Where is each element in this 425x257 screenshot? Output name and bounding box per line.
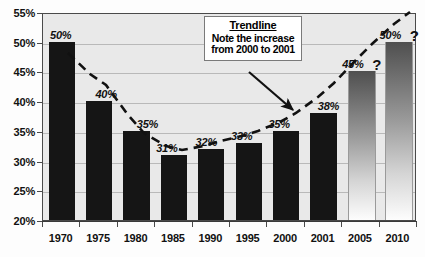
value-label-2005: 45%	[342, 58, 363, 70]
value-label-1990: 32%	[196, 136, 217, 148]
x-tick-mark	[42, 222, 43, 227]
bar-2005	[348, 71, 376, 220]
x-tick-mark	[266, 222, 267, 227]
x-tick-label-1995: 1995	[236, 232, 260, 244]
bar-1980	[123, 131, 149, 220]
x-tick-mark	[154, 222, 155, 227]
x-tick-label-2005: 2005	[348, 232, 372, 244]
value-label-2000: 35%	[268, 118, 289, 130]
x-tick-label-2010: 2010	[385, 232, 409, 244]
bar-1990	[198, 149, 224, 220]
x-tick-mark	[79, 222, 80, 227]
bar-2010	[385, 42, 413, 220]
x-tick-label-1990: 1990	[198, 232, 222, 244]
x-tick-label-1980: 1980	[124, 232, 148, 244]
y-tick-label: 30%	[14, 156, 35, 168]
y-tick-label: 50%	[14, 37, 35, 49]
y-axis: 55%50%45%40%35%30%25%20%	[0, 0, 42, 240]
y-tick-label: 45%	[14, 66, 35, 78]
value-label-2010: 50%	[380, 29, 401, 41]
bar-1970	[49, 42, 75, 220]
x-tick-label-2000: 2000	[273, 232, 297, 244]
bar-1995	[236, 143, 262, 220]
x-tick-label-2001: 2001	[311, 232, 335, 244]
x-tick-label-1985: 1985	[161, 232, 185, 244]
projection-question-mark-2010: ?	[410, 27, 419, 44]
x-tick-mark	[379, 222, 380, 227]
x-tick-mark	[416, 222, 417, 227]
value-label-1980: 35%	[137, 118, 158, 130]
x-tick-mark	[341, 222, 342, 227]
y-tick-label: 20%	[14, 215, 35, 227]
x-tick-mark	[192, 222, 193, 227]
bar-chart: 55%50%45%40%35%30%25%20% 50%40%35%31%32%…	[0, 0, 425, 257]
x-tick-mark	[229, 222, 230, 227]
bar-2001	[310, 113, 336, 220]
value-label-1985: 31%	[156, 142, 177, 154]
value-label-1970: 50%	[50, 29, 71, 41]
bar-1985	[161, 155, 187, 220]
x-tick-mark	[117, 222, 118, 227]
x-tick-label-1975: 1975	[86, 232, 110, 244]
value-label-2001: 38%	[318, 100, 339, 112]
value-label-1975: 40%	[95, 88, 116, 100]
projection-question-mark-2005: ?	[372, 56, 381, 73]
x-tick-mark	[304, 222, 305, 227]
value-label-1995: 33%	[231, 130, 252, 142]
bar-2000	[273, 131, 299, 220]
x-tick-label-1970: 1970	[49, 232, 73, 244]
callout-title: Trendline	[207, 20, 299, 32]
x-axis: 1970197519801985199019952000200120052010	[42, 222, 416, 257]
y-tick-label: 25%	[14, 185, 35, 197]
callout-line-2: from 2000 to 2001	[207, 44, 299, 56]
trendline-callout: Trendline Note the increase from 2000 to…	[204, 16, 302, 61]
bar-1975	[86, 101, 112, 220]
y-tick-label: 55%	[14, 7, 35, 19]
y-tick-label: 40%	[14, 96, 35, 108]
y-tick-label: 35%	[14, 126, 35, 138]
